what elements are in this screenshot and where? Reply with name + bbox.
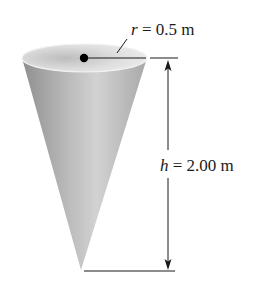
- height-value: 2.00 m: [187, 156, 234, 175]
- center-dot-icon: [80, 54, 88, 62]
- radius-equals: =: [138, 20, 156, 39]
- height-equals: =: [169, 156, 187, 175]
- height-symbol: h: [160, 156, 169, 175]
- radius-value: 0.5 m: [156, 20, 195, 39]
- cone-diagram: r = 0.5 m h = 2.00 m: [0, 0, 272, 284]
- radius-label: r = 0.5 m: [131, 20, 194, 39]
- cone-body: [22, 58, 147, 270]
- height-label: h = 2.00 m: [160, 156, 234, 175]
